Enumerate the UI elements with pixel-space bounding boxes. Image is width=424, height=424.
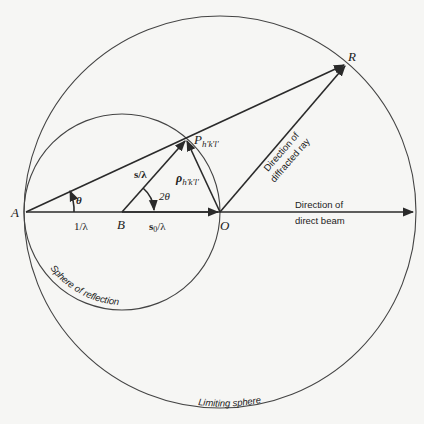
direct-beam-line2: direct beam [295,215,345,226]
two-theta-arc [143,188,154,210]
direct-beam-line1: Direction of [295,199,343,210]
point-r-label: R [347,49,356,64]
point-p-label: Ph'k'l' [193,132,220,149]
sphere-of-reflection-label: Sphere of reflection [48,263,119,307]
theta-arc [70,191,74,212]
rho-label: ρh'k'l' [175,171,200,187]
limiting-sphere-text: Limiting sphere [198,394,262,409]
ewald-sphere-diagram: A B O R Ph'k'l' θ 2θ 1/λ s/λ s0/λ ρh'k'l… [0,0,424,424]
rho-letter: ρ [175,171,182,185]
point-a-label: A [10,205,19,220]
limiting-sphere-label: Limiting sphere [198,394,262,409]
point-b-label: B [117,217,125,232]
two-theta-label: 2θ [159,190,171,202]
point-p-subscript: h'k'l' [202,139,220,149]
diffracted-ray [220,66,345,212]
point-o-label: O [220,218,230,233]
s0-rest: /λ [157,220,166,232]
one-over-lambda-label: 1/λ [74,220,89,232]
s-over-lambda-label: s/λ [134,168,147,180]
theta-label: θ [76,194,82,206]
s0-over-lambda-label: s0/λ [149,220,166,234]
rho-subscript: h'k'l' [182,177,200,187]
point-p-letter: P [193,132,202,147]
sphere-of-reflection-text: Sphere of reflection [48,263,119,307]
